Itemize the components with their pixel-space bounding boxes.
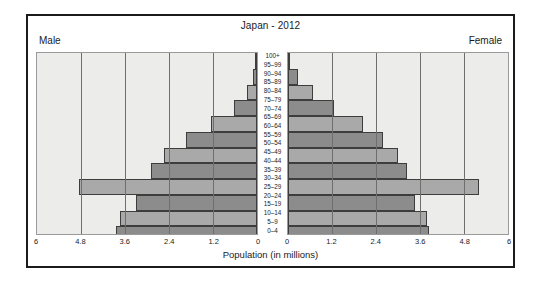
x-axis-title: Population (in millions) — [28, 249, 513, 260]
age-tick-label: 85–89 — [258, 78, 287, 87]
age-tick-label: 25–29 — [258, 183, 287, 192]
bar-row — [288, 179, 508, 195]
age-tick-label: 70–74 — [258, 104, 287, 113]
age-tick-label: 95–99 — [258, 61, 287, 70]
bar-female — [288, 53, 290, 69]
bar-male — [253, 69, 257, 85]
bar-female — [288, 132, 383, 148]
male-x-axis: 64.83.62.41.20 — [36, 237, 258, 249]
gridline — [125, 53, 126, 234]
age-tick-label: 100+ — [258, 52, 287, 61]
age-tick-label: 60–64 — [258, 122, 287, 131]
bar-row — [37, 100, 257, 116]
bar-row — [37, 148, 257, 164]
female-side-label: Female — [469, 35, 502, 46]
chart-title: Japan - 2012 — [28, 20, 513, 31]
bar-row — [288, 132, 508, 148]
male-bar-group — [37, 53, 257, 234]
x-tick-label: 1.2 — [326, 237, 336, 246]
bar-male — [116, 226, 257, 235]
bar-row — [37, 195, 257, 211]
x-tick-label: 0 — [285, 237, 289, 246]
bar-row — [37, 53, 257, 69]
age-tick-label: 90–94 — [258, 69, 287, 78]
bar-row — [37, 179, 257, 195]
bar-female — [288, 100, 334, 116]
age-tick-label: 75–79 — [258, 96, 287, 105]
bar-male — [211, 116, 257, 132]
screenshot-root: Japan - 2012 Male Female 100+95–9990–948… — [0, 0, 540, 282]
bar-row — [288, 69, 508, 85]
gridline — [81, 53, 82, 234]
bar-row — [288, 195, 508, 211]
gridline — [169, 53, 170, 234]
bar-row — [288, 85, 508, 101]
bar-female — [288, 85, 313, 101]
bar-male — [234, 100, 257, 116]
age-tick-label: 15–19 — [258, 200, 287, 209]
male-side-label: Male — [39, 35, 61, 46]
bar-row — [37, 85, 257, 101]
age-tick-label: 55–59 — [258, 130, 287, 139]
female-plot-panel — [287, 52, 509, 235]
figure-frame: Japan - 2012 Male Female 100+95–9990–948… — [26, 14, 515, 268]
age-tick-label: 20–24 — [258, 192, 287, 201]
age-tick-label: 30–34 — [258, 174, 287, 183]
bar-row — [37, 211, 257, 227]
x-tick-label: 6 — [34, 237, 38, 246]
x-tick-label: 6 — [507, 237, 511, 246]
age-tick-label: 35–39 — [258, 165, 287, 174]
bar-female — [288, 69, 298, 85]
x-tick-label: 4.8 — [75, 237, 85, 246]
bar-row — [288, 163, 508, 179]
x-tick-label: 4.8 — [459, 237, 469, 246]
bar-male — [164, 148, 258, 164]
bar-row — [37, 226, 257, 235]
bar-row — [288, 53, 508, 69]
bar-row — [288, 211, 508, 227]
female-bar-group — [288, 53, 508, 234]
bar-female — [288, 163, 407, 179]
bar-male — [151, 163, 257, 179]
bar-female — [288, 226, 429, 235]
bar-male — [186, 132, 258, 148]
bar-row — [37, 163, 257, 179]
age-tick-label: 0–4 — [258, 226, 287, 235]
age-tick-label: 50–54 — [258, 139, 287, 148]
x-tick-label: 3.6 — [120, 237, 130, 246]
bar-row — [37, 132, 257, 148]
x-tick-label: 1.2 — [208, 237, 218, 246]
x-tick-label: 0 — [256, 237, 260, 246]
gridline — [420, 53, 421, 234]
bar-male — [120, 211, 258, 227]
bar-female — [288, 116, 363, 132]
female-x-axis: 64.83.62.41.20 — [287, 237, 509, 249]
age-tick-label: 40–44 — [258, 157, 287, 166]
bar-row — [288, 226, 508, 235]
bar-row — [288, 100, 508, 116]
bar-female — [288, 211, 427, 227]
bar-male — [136, 195, 257, 211]
x-tick-label: 2.4 — [371, 237, 381, 246]
bar-row — [37, 116, 257, 132]
bar-male — [255, 53, 257, 69]
x-tick-label: 2.4 — [164, 237, 174, 246]
gridline — [376, 53, 377, 234]
age-tick-label: 10–14 — [258, 209, 287, 218]
gridline — [464, 53, 465, 234]
bar-row — [288, 116, 508, 132]
bar-row — [37, 69, 257, 85]
age-tick-label: 45–49 — [258, 148, 287, 157]
age-tick-label: 80–84 — [258, 87, 287, 96]
bar-row — [288, 148, 508, 164]
age-tick-label: 5–9 — [258, 218, 287, 227]
bar-female — [288, 195, 415, 211]
bar-female — [288, 148, 398, 164]
x-tick-label: 3.6 — [415, 237, 425, 246]
gridline — [213, 53, 214, 234]
age-group-axis: 100+95–9990–9485–8980–8475–7970–7465–696… — [258, 52, 287, 235]
gridline — [332, 53, 333, 234]
male-plot-panel — [36, 52, 258, 235]
bar-male — [247, 85, 257, 101]
age-tick-label: 65–69 — [258, 113, 287, 122]
